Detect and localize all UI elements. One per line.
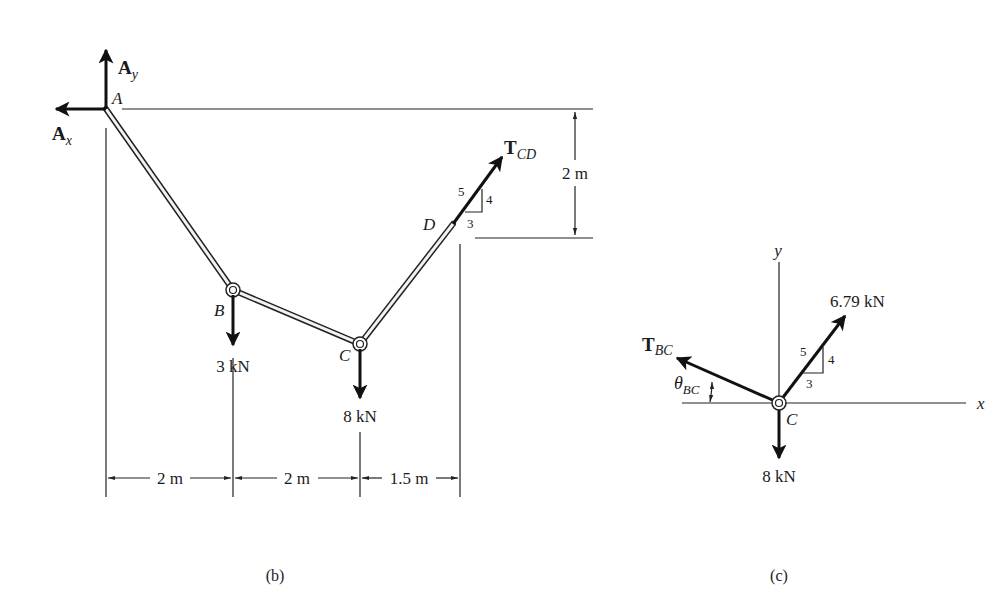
svg-text:4: 4 <box>486 192 493 207</box>
figure-c: y x TBC θBC 6.79 kN 5 4 3 C 8 kN (c) <box>642 241 985 585</box>
reaction-ax-label: Ax <box>52 123 73 148</box>
y-axis-label: y <box>772 241 782 260</box>
horizontal-dimensions: 2 m 2 m 1.5 m <box>108 469 458 488</box>
angle-label: θBC <box>674 373 700 397</box>
load-b-label: 3 kN <box>216 357 250 376</box>
ring-c-fbd <box>772 396 786 410</box>
figure-b: 2 m 2 m 2 m 1.5 m <box>52 50 593 585</box>
svg-text:3: 3 <box>467 216 474 231</box>
caption-c: (c) <box>770 567 788 585</box>
svg-text:3: 3 <box>806 376 813 391</box>
point-a-label: A <box>111 89 123 108</box>
dimension-ab: 2 m <box>157 469 183 488</box>
ring-b <box>226 283 240 297</box>
vertical-dimension-label: 2 m <box>562 164 588 183</box>
dimension-bc: 2 m <box>284 469 310 488</box>
dimension-cd: 1.5 m <box>390 469 429 488</box>
point-b-label: B <box>214 301 225 320</box>
vertical-dimension: 2 m <box>562 112 588 235</box>
force-cd-arrow <box>781 316 845 400</box>
load-c-fbd-label: 8 kN <box>762 467 796 486</box>
tension-bc-label: TBC <box>642 334 673 358</box>
angle-arc-icon <box>710 382 712 402</box>
ring-c <box>353 337 367 351</box>
caption-b: (b) <box>266 567 285 585</box>
point-c-fbd-label: C <box>786 410 798 429</box>
x-axis-label: x <box>976 394 985 413</box>
point-d-label: D <box>422 215 436 234</box>
svg-text:4: 4 <box>828 352 835 367</box>
cable <box>106 109 453 344</box>
point-c-label: C <box>339 346 351 365</box>
cable-system-diagram: 2 m 2 m 2 m 1.5 m <box>0 0 1003 607</box>
reaction-ay-label: Ay <box>118 57 139 82</box>
load-c-label: 8 kN <box>343 407 377 426</box>
svg-text:5: 5 <box>458 184 465 199</box>
tension-cd-label: TCD <box>504 137 536 162</box>
svg-text:5: 5 <box>800 344 807 359</box>
force-cd-label: 6.79 kN <box>830 292 885 311</box>
